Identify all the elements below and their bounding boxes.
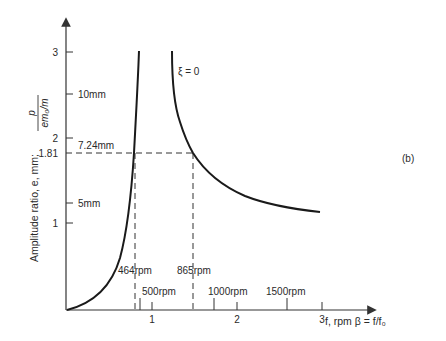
x-tick-1: 1	[149, 314, 155, 325]
x-axis-label: f, rpm β = f/f₀	[325, 315, 386, 327]
label-464rpm: 464rpm	[118, 265, 152, 276]
y-axis-fraction: p em₀/m	[26, 95, 50, 131]
y-axis-label: Amplitude ratio, e, mm;	[28, 154, 40, 262]
x-tick-500rpm: 500rpm	[142, 286, 176, 297]
svg-text:p: p	[26, 110, 37, 117]
xi-zero-label: ξ = 0	[178, 66, 200, 78]
amplitude-ratio-chart: 3 2 1 1.81 10mm 5mm 1 2 3 500rpm 1000rpm…	[0, 0, 446, 341]
y-tick-5mm: 5mm	[78, 198, 100, 209]
x-tick-2: 2	[234, 314, 240, 325]
x-tick-1500rpm: 1500rpm	[266, 286, 305, 297]
y-tick-10mm: 10mm	[78, 89, 106, 100]
label-7-24mm: 7.24mm	[78, 140, 114, 151]
x-ticks-rpm: 500rpm 1000rpm 1500rpm	[140, 286, 305, 310]
y-tick-1-81: 1.81	[39, 148, 59, 159]
x-ticks-beta: 1 2 3	[149, 302, 325, 325]
x-tick-1000rpm: 1000rpm	[208, 286, 247, 297]
y-tick-2: 2	[52, 133, 58, 144]
label-865rpm: 865rpm	[177, 265, 211, 276]
y-axis-label-text: Amplitude ratio, e, mm;	[28, 154, 40, 262]
y-tick-3: 3	[52, 47, 58, 58]
panel-label: (b)	[402, 153, 414, 164]
y-tick-1: 1	[52, 218, 58, 229]
y-ticks-ratio: 3 2 1 1.81	[39, 47, 73, 229]
svg-text:em₀/m: em₀/m	[39, 98, 50, 127]
